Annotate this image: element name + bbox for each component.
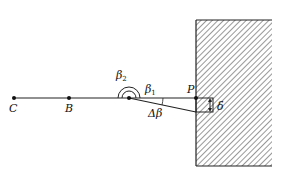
label-beta1: β1 xyxy=(144,83,156,97)
label-beta2: β2 xyxy=(115,69,127,83)
label-delta-beta: Δβ xyxy=(147,107,162,120)
point-c xyxy=(12,96,16,100)
point-p xyxy=(194,96,198,100)
wall xyxy=(196,20,272,166)
label-p: P xyxy=(186,83,195,96)
label-b: B xyxy=(64,102,73,115)
traverse-diagram: C B P β2 β1 Δβ δ xyxy=(0,0,289,180)
label-delta: δ xyxy=(217,100,224,113)
delta-beta-arc xyxy=(162,98,163,105)
label-c: C xyxy=(9,102,18,115)
point-b xyxy=(67,96,71,100)
point-vertex xyxy=(127,96,131,100)
